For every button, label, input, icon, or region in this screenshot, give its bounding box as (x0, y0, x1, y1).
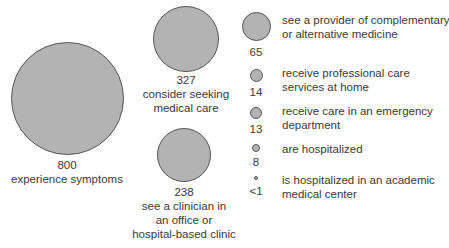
desc-academic-medical-center-1: is hospitalized in an academic (282, 173, 435, 187)
label-consider-seeking-care-2: medical care (126, 101, 246, 115)
circle-consider-seeking-care (153, 6, 219, 72)
value-home-care: 14 (236, 85, 276, 99)
desc-complementary-medicine-1: see a provider of complementary (282, 13, 449, 27)
desc-emergency-department-2: department (282, 118, 340, 132)
desc-academic-medical-center-2: medical center (282, 187, 357, 201)
circle-academic-medical-center (254, 176, 258, 180)
value-emergency-department: 13 (236, 122, 276, 136)
value-hospitalized: 8 (236, 155, 276, 169)
value-consider-seeking-care: 327 (136, 73, 236, 87)
label-see-clinician-1: see a clinician in (124, 199, 244, 213)
circle-hospitalized (252, 144, 260, 152)
desc-emergency-department-1: receive care in an emergency (282, 104, 433, 118)
label-see-clinician-3: hospital-based clinic (124, 227, 244, 241)
circle-experience-symptoms (11, 42, 124, 155)
circle-emergency-department (250, 107, 262, 119)
desc-complementary-medicine-2: or alternative medicine (282, 27, 398, 41)
value-experience-symptoms: 800 (17, 158, 117, 172)
label-consider-seeking-care-1: consider seeking (126, 87, 246, 101)
value-complementary-medicine: 65 (236, 45, 276, 59)
value-academic-medical-center: <1 (236, 184, 276, 198)
label-experience-symptoms: experience symptoms (0, 172, 137, 186)
value-see-clinician: 238 (134, 185, 234, 199)
label-see-clinician-2: an office or (124, 213, 244, 227)
desc-home-care-2: services at home (282, 80, 369, 94)
desc-hospitalized: are hospitalized (282, 142, 363, 156)
desc-home-care-1: receive professional care (282, 66, 410, 80)
circle-home-care (250, 69, 263, 82)
circle-see-clinician (157, 128, 211, 182)
circle-complementary-medicine (242, 12, 271, 41)
